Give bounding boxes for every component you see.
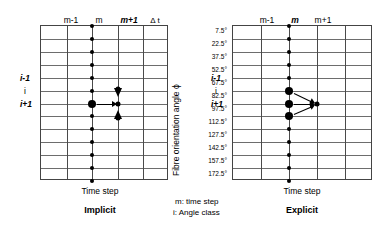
implicit-node-m bbox=[90, 166, 94, 170]
implicit-node-m1-i-minus-1 bbox=[116, 87, 121, 92]
explicit-node-m-i bbox=[285, 100, 293, 108]
grid-line-horizontal bbox=[233, 116, 371, 117]
explicit-row-label-i: i bbox=[215, 87, 217, 96]
grid-line-horizontal bbox=[233, 78, 371, 79]
explicit-node-m bbox=[287, 166, 291, 170]
implicit-node-m bbox=[90, 127, 94, 131]
implicit-node-m1-i bbox=[116, 102, 121, 107]
implicit-row-label-i-minus-1: i-1 bbox=[20, 74, 30, 83]
implicit-col-label-m: m bbox=[95, 16, 102, 25]
grid-line-horizontal bbox=[41, 129, 167, 130]
implicit-node-m bbox=[90, 37, 94, 41]
implicit-node-m bbox=[90, 24, 94, 28]
implicit-delta-t-label: Δ t bbox=[150, 16, 159, 25]
grid-line-horizontal bbox=[233, 39, 371, 40]
implicit-node-m-i bbox=[88, 100, 96, 108]
implicit-node-m1-i-plus-1 bbox=[116, 116, 121, 121]
grid-line-horizontal bbox=[233, 155, 371, 156]
implicit-node-m bbox=[90, 114, 94, 118]
grid-line-horizontal bbox=[233, 65, 371, 66]
implicit-arrow-horizontal-line bbox=[97, 104, 113, 105]
implicit-panel: m-1 m m+1 Δ t i-1 i i+1 Time step Implic… bbox=[0, 0, 175, 228]
implicit-node-m bbox=[90, 50, 94, 54]
implicit-node-m bbox=[90, 140, 94, 144]
implicit-node-m bbox=[90, 179, 94, 183]
explicit-node-m bbox=[287, 63, 291, 67]
explicit-col-label-m-minus-1: m-1 bbox=[260, 16, 275, 25]
explicit-panel: m-1 m m+1 i-1 i i+1 Time step Explicit bbox=[225, 0, 383, 228]
explicit-node-m bbox=[287, 140, 291, 144]
grid-line-horizontal bbox=[41, 39, 167, 40]
explicit-grid bbox=[232, 25, 372, 180]
implicit-node-m bbox=[90, 89, 94, 93]
explicit-node-m bbox=[287, 37, 291, 41]
explicit-node-m bbox=[287, 50, 291, 54]
grid-line-horizontal bbox=[41, 91, 167, 92]
grid-line-horizontal bbox=[41, 116, 167, 117]
explicit-node-m bbox=[287, 24, 291, 28]
grid-line-horizontal bbox=[41, 78, 167, 79]
grid-line-horizontal bbox=[233, 168, 371, 169]
explicit-node-m bbox=[287, 127, 291, 131]
explicit-node-m-i-plus-1 bbox=[285, 112, 293, 120]
implicit-x-axis-title: Time step bbox=[81, 186, 118, 196]
grid-line-vertical bbox=[345, 26, 346, 179]
implicit-node-m bbox=[90, 153, 94, 157]
implicit-row-label-i-plus-1: i+1 bbox=[20, 100, 32, 109]
grid-line-horizontal bbox=[41, 65, 167, 66]
grid-line-horizontal bbox=[233, 129, 371, 130]
explicit-node-m-i-minus-1 bbox=[285, 87, 293, 95]
grid-line-vertical bbox=[67, 26, 68, 179]
explicit-node-m bbox=[287, 153, 291, 157]
grid-line-horizontal bbox=[41, 52, 167, 53]
explicit-node-m bbox=[287, 76, 291, 80]
grid-line-horizontal bbox=[41, 168, 167, 169]
grid-line-horizontal bbox=[233, 52, 371, 53]
explicit-node-m bbox=[287, 179, 291, 183]
explicit-node-m1-i bbox=[315, 102, 320, 107]
implicit-grid bbox=[40, 25, 168, 180]
implicit-col-label-m-minus-1: m-1 bbox=[64, 16, 79, 25]
grid-line-horizontal bbox=[41, 142, 167, 143]
explicit-arrow-from-i-plus-1-line bbox=[294, 107, 312, 116]
legend-line-m: m: time step bbox=[175, 196, 219, 207]
explicit-x-axis-title: Time step bbox=[283, 186, 320, 196]
grid-line-vertical bbox=[143, 26, 144, 179]
implicit-caption: Implicit bbox=[84, 205, 116, 215]
explicit-col-label-m-plus-1: m+1 bbox=[315, 16, 332, 25]
explicit-row-label-i-minus-1: i-1 bbox=[211, 74, 221, 83]
implicit-node-m bbox=[90, 63, 94, 67]
grid-line-horizontal bbox=[233, 142, 371, 143]
explicit-col-label-m: m bbox=[291, 16, 299, 25]
implicit-node-m bbox=[90, 76, 94, 80]
explicit-row-label-i-plus-1: i+1 bbox=[211, 100, 223, 109]
legend-line-i: i: Angle class bbox=[173, 207, 220, 218]
explicit-caption: Explicit bbox=[286, 205, 318, 215]
implicit-col-label-m-plus-1: m+1 bbox=[120, 16, 137, 25]
y-axis-title: Fibre orientation angle ϕ bbox=[171, 84, 181, 176]
implicit-row-label-i: i bbox=[24, 87, 26, 96]
grid-line-vertical bbox=[261, 26, 262, 179]
grid-line-horizontal bbox=[41, 155, 167, 156]
grid-line-horizontal bbox=[233, 91, 371, 92]
